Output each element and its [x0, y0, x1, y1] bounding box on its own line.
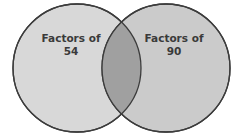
- set-label-90-line1: Factors of: [145, 32, 204, 44]
- set-label-54-line2: 54: [64, 45, 79, 57]
- set-label-54-line1: Factors of: [42, 32, 101, 44]
- set-label-90-line2: 90: [167, 45, 182, 57]
- venn-diagram: Factors of 54 Factors of 90: [0, 0, 235, 135]
